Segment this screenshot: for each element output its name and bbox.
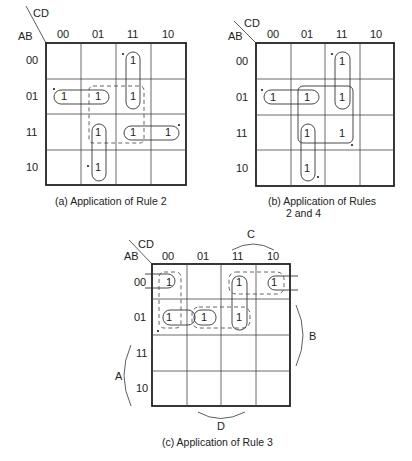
- caption: (a) Application of Rule 2: [55, 195, 166, 207]
- col-label: 01: [197, 250, 209, 262]
- row-label: 01: [26, 90, 38, 102]
- cell-one: 1: [163, 276, 175, 288]
- cell-one: 1: [92, 90, 104, 102]
- row-label: 10: [136, 382, 148, 394]
- row-var-label: AB: [228, 30, 243, 42]
- cell-one: 1: [92, 126, 104, 138]
- col-label: 10: [162, 28, 174, 40]
- row-var-label: AB: [18, 30, 33, 42]
- cell-one: 1: [301, 162, 313, 174]
- col-label: 11: [127, 28, 138, 40]
- row-label: 00: [236, 55, 248, 67]
- cell-one: 1: [127, 90, 139, 102]
- cell-one: 1: [127, 126, 139, 138]
- row-label: 11: [236, 127, 247, 139]
- col-label: 00: [267, 28, 279, 40]
- row-label: 01: [134, 311, 146, 323]
- bracket-label-a: A: [115, 370, 122, 382]
- row-label: 10: [236, 162, 248, 174]
- cell-one: 1: [336, 127, 348, 139]
- cell-one: 1: [336, 91, 348, 103]
- row-label: 00: [134, 276, 146, 288]
- bracket-d: [198, 412, 245, 419]
- cell-one: 1: [92, 161, 104, 173]
- col-label: 01: [92, 28, 104, 40]
- col-label: 11: [232, 250, 243, 262]
- row-var-label: AB: [124, 250, 139, 262]
- cell-one: 1: [336, 55, 348, 67]
- col-label: 00: [57, 28, 69, 40]
- bracket-b: [296, 305, 303, 366]
- cell-one: 1: [58, 90, 70, 102]
- cell-one: 1: [233, 276, 245, 288]
- kmap-a: CD AB 00 01 11 10 00 01 11 10 1 1 1 1 1 …: [0, 0, 206, 215]
- row-label: 11: [136, 347, 147, 359]
- caption: 2 and 4: [286, 207, 321, 219]
- kmap-b: CD AB 00 01 11 10 00 01 11 10 1 1 1 1 1 …: [206, 0, 412, 220]
- col-label: 01: [301, 28, 313, 40]
- cell-one: 1: [301, 91, 313, 103]
- row-label: 01: [236, 91, 248, 103]
- cell-one: 1: [127, 54, 139, 66]
- cell-one: 1: [267, 91, 279, 103]
- bracket-label-c: C: [247, 228, 255, 240]
- cell-one: 1: [163, 311, 175, 323]
- row-label: 10: [26, 161, 38, 173]
- col-label: 11: [336, 28, 347, 40]
- cell-one: 1: [162, 126, 174, 138]
- bracket-label-d: D: [217, 420, 225, 432]
- row-label: 11: [26, 126, 37, 138]
- col-label: 10: [370, 28, 382, 40]
- bracket-label-b: B: [309, 330, 316, 342]
- kmap-c: C B A D CD AB 00 01 11 10 00 01 11 10 1 …: [100, 220, 330, 461]
- col-var-label: CD: [138, 238, 154, 250]
- caption: (c) Application of Rule 3: [162, 436, 273, 448]
- cell-one: 1: [268, 276, 280, 288]
- col-label: 10: [267, 250, 279, 262]
- bracket-a: [124, 345, 131, 406]
- col-label: 00: [162, 250, 174, 262]
- cell-one: 1: [198, 311, 210, 323]
- cell-one: 1: [301, 127, 313, 139]
- cell-one: 1: [233, 311, 245, 323]
- col-var-label: CD: [33, 7, 49, 19]
- col-var-label: CD: [244, 17, 260, 29]
- row-label: 00: [26, 54, 38, 66]
- caption: (b) Application of Rules: [268, 195, 376, 207]
